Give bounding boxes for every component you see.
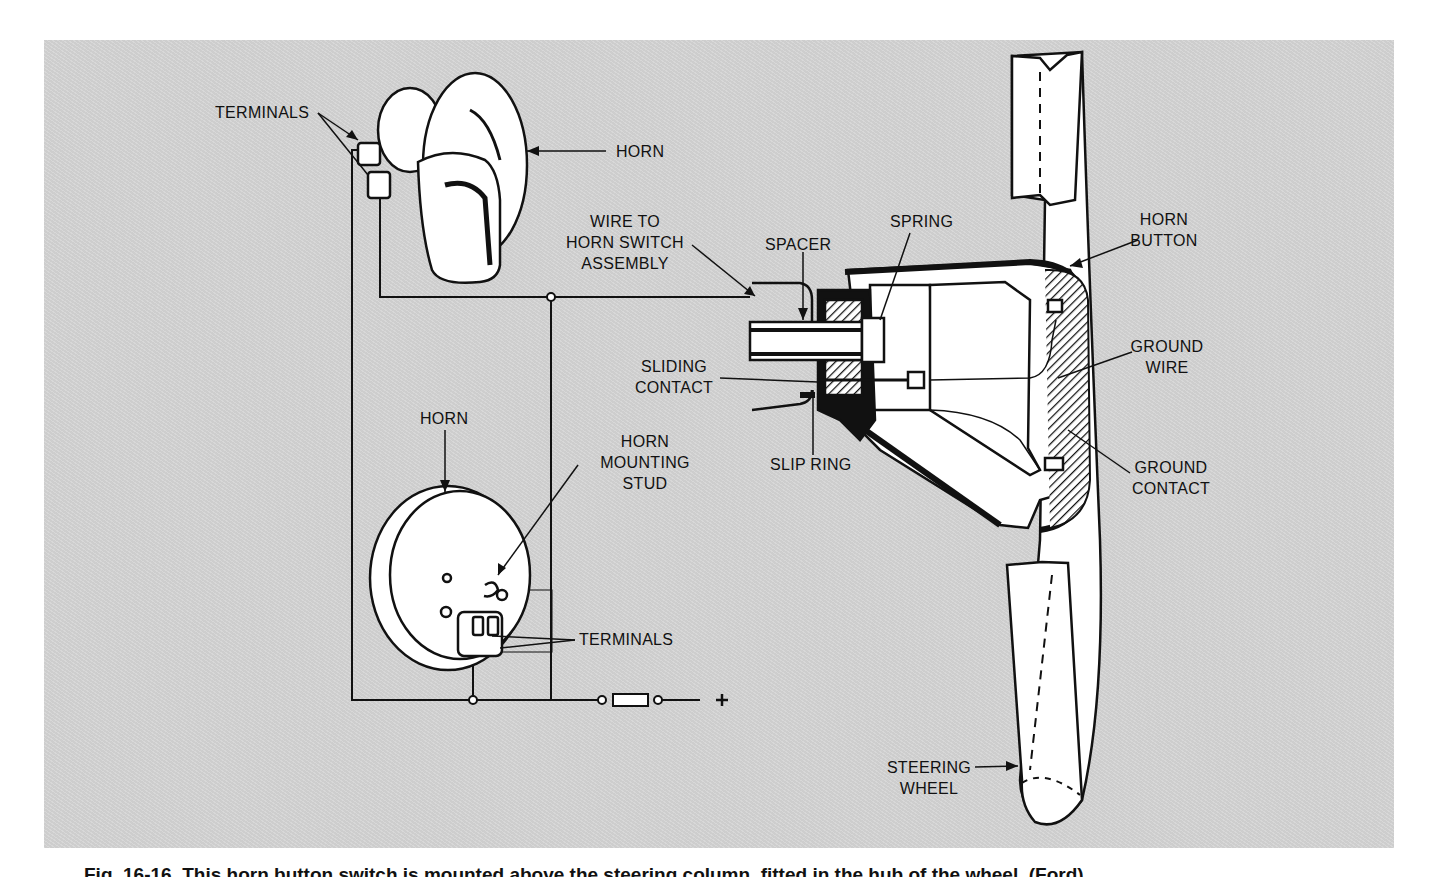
diagram-artwork — [44, 40, 1394, 848]
horn-switch-assembly — [750, 262, 1090, 530]
label-sliding-contact: SLIDING CONTACT — [629, 356, 719, 398]
label-steering-line2: WHEEL — [884, 778, 974, 799]
label-spring: SPRING — [890, 211, 953, 232]
label-horn-button: HORN BUTTON — [1124, 209, 1204, 251]
label-terminals-bottom: TERMINALS — [579, 629, 673, 650]
label-wire-line2: HORN SWITCH — [560, 232, 690, 253]
label-horn-mounting-stud: HORN MOUNTING STUD — [595, 431, 695, 494]
label-horn-top: HORN — [616, 141, 664, 162]
label-sliding-line1: SLIDING — [629, 356, 719, 377]
label-spacer: SPACER — [765, 234, 831, 255]
label-horn-button-line2: BUTTON — [1124, 230, 1204, 251]
figure-caption: Fig. 16-16. This horn button switch is m… — [84, 864, 1084, 882]
label-sliding-line2: CONTACT — [629, 377, 719, 398]
label-horn-bottom: HORN — [420, 408, 468, 429]
label-ground-wire-line1: GROUND — [1127, 336, 1207, 357]
label-ground-wire-line2: WIRE — [1127, 357, 1207, 378]
label-terminals-top: TERMINALS — [215, 102, 309, 123]
horn-top — [358, 73, 527, 283]
label-slip-ring: SLIP RING — [770, 454, 852, 475]
label-wire-line3: ASSEMBLY — [560, 253, 690, 274]
label-mounting-line1: HORN — [595, 431, 695, 452]
label-steering-line1: STEERING — [884, 757, 974, 778]
label-mounting-line3: STUD — [595, 473, 695, 494]
label-ground-contact-line2: CONTACT — [1126, 478, 1216, 499]
horn-bottom — [370, 486, 530, 670]
label-steering-wheel: STEERING WHEEL — [884, 757, 974, 799]
label-horn-button-line1: HORN — [1124, 209, 1204, 230]
label-ground-wire: GROUND WIRE — [1127, 336, 1207, 378]
label-wire-to-horn-switch: WIRE TO HORN SWITCH ASSEMBLY — [560, 211, 690, 274]
label-ground-contact-line1: GROUND — [1126, 457, 1216, 478]
horn-circuit-diagram: TERMINALS HORN WIRE TO HORN SWITCH ASSEM… — [44, 40, 1394, 848]
label-ground-contact: GROUND CONTACT — [1126, 457, 1216, 499]
label-mounting-line2: MOUNTING — [595, 452, 695, 473]
label-wire-line1: WIRE TO — [560, 211, 690, 232]
